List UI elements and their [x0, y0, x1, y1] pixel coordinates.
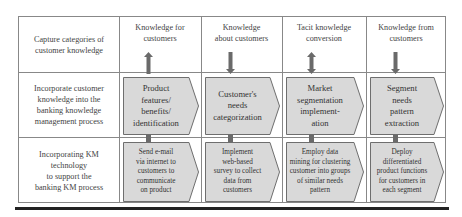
label-line: technology [35, 160, 103, 171]
text-line: extraction [385, 118, 419, 130]
text-line: on product [136, 186, 176, 195]
text-line: Send e-mail [136, 148, 176, 157]
label-line: to support the [35, 171, 103, 182]
label-line: knowledge into the [34, 94, 104, 105]
header-line: Knowledge [201, 22, 282, 33]
text-line: pattern [385, 106, 419, 118]
text-line: Deploy [377, 148, 428, 157]
header-line: conversion [282, 33, 366, 44]
process-step-knowledge-from-customers: Segmentneedspatternextraction [370, 77, 444, 135]
text-line: Customer's [213, 89, 262, 101]
technology-step-text: Send e-mailvia internet tocustomers toco… [136, 148, 176, 195]
text-line: each segment [377, 186, 428, 195]
process-step-knowledge-about-customers: Customer'sneedscategorization [205, 77, 280, 135]
text-line: Market [297, 83, 343, 95]
text-line: needs [385, 95, 419, 107]
bottom-rule [15, 207, 449, 210]
arrow-up-icon [144, 52, 153, 78]
text-line: of similar needs [290, 177, 351, 186]
text-line: categorization [213, 112, 262, 124]
process-step-tacit-knowledge-conversion: Marketsegmentationimplement-ation [286, 77, 364, 135]
technology-step-knowledge-about-customers: Implementweb-basedsurvey to collectdata … [205, 142, 280, 202]
connector-bar [146, 135, 151, 142]
text-line: customers to [136, 167, 176, 176]
row-label-capture-categories: Capture categories of customer knowledge [19, 17, 119, 72]
text-line: features/ [133, 95, 179, 107]
text-line: communicate [136, 177, 176, 186]
connector-bar [228, 135, 233, 142]
text-line: benefits/ [133, 106, 179, 118]
text-line: product functions [377, 167, 428, 176]
column-header-knowledge-from-customers: Knowledge fromcustomers [366, 22, 446, 44]
text-line: customers [214, 186, 262, 195]
label-line: customer knowledge [34, 45, 104, 56]
process-step-text: Productfeatures/benefits/identification [133, 83, 179, 129]
label-line: Capture categories of [34, 34, 104, 45]
process-step-text: Segmentneedspatternextraction [385, 83, 419, 129]
technology-step-knowledge-for-customers: Send e-mailvia internet tocustomers toco… [123, 142, 199, 202]
arrow-down-icon [226, 52, 235, 78]
connector-bar [393, 135, 398, 142]
text-line: implement- [297, 106, 343, 118]
technology-step-knowledge-from-customers: Deploydifferentiatedproduct functionsfor… [370, 142, 444, 202]
text-line: Implement [214, 148, 262, 157]
text-line: survey to collect [214, 167, 262, 176]
technology-step-text: Employ datamining for clusteringcustomer… [290, 148, 351, 195]
label-line: management process [34, 116, 104, 127]
text-line: customer into groups [290, 167, 351, 176]
header-line: about customers [201, 33, 282, 44]
header-line: customers [366, 33, 446, 44]
text-line: via internet to [136, 158, 176, 167]
column-divider [119, 16, 120, 203]
header-line: Tacit knowledge [282, 22, 366, 33]
column-header-tacit-knowledge-conversion: Tacit knowledgeconversion [282, 22, 366, 44]
technology-step-tacit-knowledge-conversion: Employ datamining for clusteringcustomer… [286, 142, 364, 202]
column-header-knowledge-about-customers: Knowledgeabout customers [201, 22, 282, 44]
arrow-bidirectional-icon [307, 52, 316, 78]
technology-step-text: Deploydifferentiatedproduct functionsfor… [377, 148, 428, 195]
text-line: web-based [214, 158, 262, 167]
label-line: banking KM process [35, 182, 103, 193]
text-line: identification [133, 118, 179, 130]
label-line: banking knowledge [34, 105, 104, 116]
row-label-km-technology: Incorporating KM technology to support t… [19, 138, 119, 203]
text-line: pattern [290, 186, 351, 195]
connector-bar [309, 135, 314, 142]
header-line: Knowledge for [119, 22, 201, 33]
header-line: customers [119, 33, 201, 44]
text-line: ation [297, 118, 343, 130]
technology-step-text: Implementweb-basedsurvey to collectdata … [214, 148, 262, 195]
process-step-text: Customer'sneedscategorization [213, 89, 262, 124]
header-line: Knowledge from [366, 22, 446, 33]
row-label-incorporate-knowledge: Incorporate customer knowledge into the … [19, 73, 119, 137]
column-divider [366, 16, 367, 203]
text-line: Employ data [290, 148, 351, 157]
text-line: data from [214, 177, 262, 186]
column-divider [282, 16, 283, 203]
column-header-knowledge-for-customers: Knowledge forcustomers [119, 22, 201, 44]
arrow-down-icon [391, 52, 400, 78]
text-line: Segment [385, 83, 419, 95]
text-line: Product [133, 83, 179, 95]
text-line: needs [213, 100, 262, 112]
text-line: mining for clustering [290, 158, 351, 167]
process-step-text: Marketsegmentationimplement-ation [297, 83, 343, 129]
process-step-knowledge-for-customers: Productfeatures/benefits/identification [123, 77, 199, 135]
column-divider [201, 16, 202, 203]
text-line: differentiated [377, 158, 428, 167]
label-line: Incorporate customer [34, 83, 104, 94]
text-line: segmentation [297, 95, 343, 107]
text-line: for customers in [377, 177, 428, 186]
label-line: Incorporating KM [35, 149, 103, 160]
